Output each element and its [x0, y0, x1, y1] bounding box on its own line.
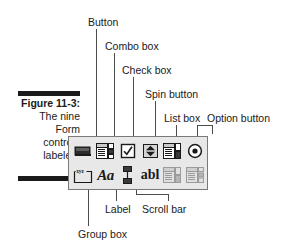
form-controls-toolbar[interactable]: xyz Aa abl — [68, 136, 208, 190]
figure-illustration: Figure 11-3: The nine Form controls labe… — [0, 0, 287, 248]
text-box-icon-glyph: abl — [141, 167, 160, 183]
scroll-bar-control-icon[interactable] — [117, 164, 139, 186]
callout-label-scroll-bar: Scroll bar — [142, 203, 186, 215]
text-box-control-icon[interactable]: abl — [139, 164, 161, 186]
callout-label-combo-box: Combo box — [105, 40, 159, 52]
list-box-control-icon[interactable] — [161, 140, 183, 162]
caption-line-1: The nine — [0, 110, 80, 123]
leader-line-option-button-elbow — [197, 125, 213, 126]
leader-line-scroll-bar-elbow — [136, 194, 168, 195]
callout-label-check-box: Check box — [122, 64, 172, 76]
button-control-icon[interactable] — [72, 140, 94, 162]
callout-label-group-box: Group box — [78, 228, 127, 240]
group-box-control-icon[interactable]: xyz — [72, 164, 94, 186]
leader-line-combo-box — [114, 53, 115, 141]
leader-line-group-box — [88, 186, 89, 226]
callout-label-button: Button — [88, 16, 118, 28]
label-control-icon[interactable]: Aa — [94, 164, 116, 186]
caption-rule-top — [18, 91, 80, 96]
toolbar-row-2: xyz Aa abl — [70, 163, 206, 187]
callout-label-spin-button: Spin button — [145, 88, 198, 100]
combo-box-control-icon[interactable] — [94, 140, 116, 162]
svg-text:xyz: xyz — [76, 167, 84, 173]
table-control-icon[interactable] — [184, 164, 206, 186]
spin-button-control-icon[interactable] — [139, 140, 161, 162]
leader-line-option-button-stem — [212, 125, 213, 134]
callout-label-list-box: List box — [164, 112, 200, 124]
callout-label-option-button: Option button — [207, 112, 270, 124]
leader-line-button — [96, 29, 97, 141]
grid-control-icon[interactable] — [161, 164, 183, 186]
check-box-control-icon[interactable] — [117, 140, 139, 162]
caption-line-2: Form — [0, 123, 80, 136]
caption-line-0: Figure 11-3: — [0, 97, 80, 110]
leader-line-scroll-bar-drop — [168, 194, 169, 201]
leader-line-check-box — [133, 77, 134, 141]
option-button-control-icon[interactable] — [184, 140, 206, 162]
toolbar-row-1 — [70, 139, 206, 163]
callout-label-label: Label — [105, 203, 131, 215]
label-icon-glyph: Aa — [97, 167, 114, 184]
leader-line-spin-button — [155, 101, 156, 141]
